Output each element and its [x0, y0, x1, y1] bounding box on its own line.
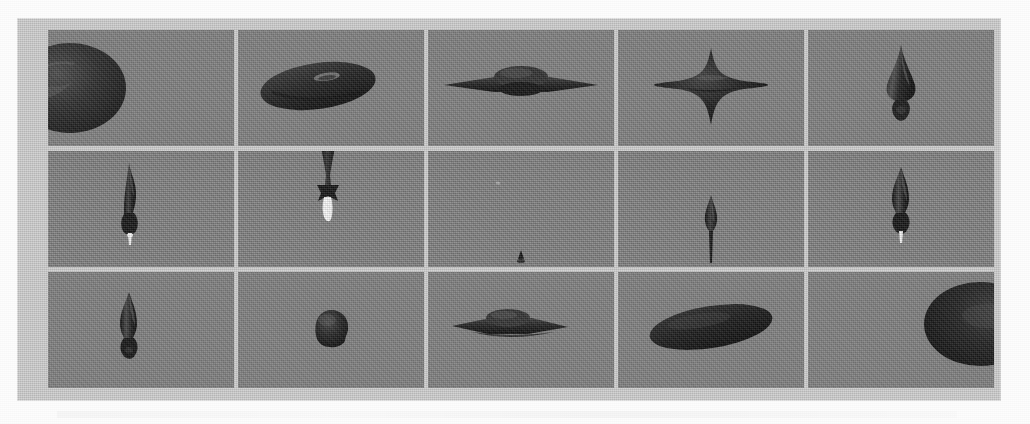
render-tile-2	[238, 30, 424, 146]
shape-broad-tilted-ellipse	[618, 272, 804, 388]
render-tile-8	[428, 151, 614, 267]
shape-large-ellipsoid-clipped-right	[808, 272, 994, 388]
render-tile-grid	[48, 30, 997, 388]
shape-hourglass-column-with-white-jet	[238, 151, 424, 267]
render-tile-9	[618, 151, 804, 267]
render-tile-10	[808, 151, 994, 267]
figure-panel	[17, 18, 1001, 401]
shape-four-pointed-star-cusps	[618, 30, 804, 146]
plate-scuff-line	[57, 411, 957, 418]
shape-spindle-with-bulb-and-bright-tip	[808, 151, 994, 267]
shape-flattened-disk-with-central-dimple	[238, 30, 424, 146]
render-tile-4	[618, 30, 804, 146]
scanned-page	[0, 0, 1030, 424]
shape-tiny-residual-speck	[428, 151, 614, 267]
render-tile-5	[808, 30, 994, 146]
shape-saucer-with-double-flange	[428, 272, 614, 388]
shape-saucer-with-equatorial-flange	[428, 30, 614, 146]
render-tile-7	[238, 151, 424, 267]
shape-spindle-with-rounded-foot	[48, 272, 234, 388]
render-tile-13	[428, 272, 614, 388]
render-tile-6	[48, 151, 234, 267]
shape-teardrop-with-thin-stem	[618, 151, 804, 267]
shape-large-ellipsoid-clipped-left	[48, 30, 234, 146]
shape-spinning-top-with-pointed-apex	[808, 30, 994, 146]
render-tile-14	[618, 272, 804, 388]
shape-elongated-spindle-with-bright-tip	[48, 151, 234, 267]
render-tile-15	[808, 272, 994, 388]
render-tile-12	[238, 272, 424, 388]
render-tile-11	[48, 272, 234, 388]
render-tile-3	[428, 30, 614, 146]
render-tile-1	[48, 30, 234, 146]
shape-compact-lumpy-blob	[238, 272, 424, 388]
